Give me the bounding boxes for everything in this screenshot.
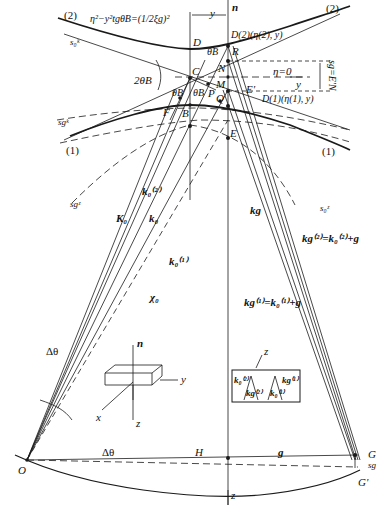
- theta-b-top: θB: [207, 47, 218, 57]
- beam-inset-kg-1: kg⁽¹⁾: [282, 376, 298, 385]
- s0k-label: s₀ᵏ: [70, 38, 79, 47]
- s0z-label: s₀ᶻ: [320, 204, 329, 213]
- y-top-label: y: [210, 8, 215, 19]
- point-Q: Q: [216, 93, 224, 104]
- g-vector-label: g: [278, 447, 284, 458]
- branch-2-label: (2): [64, 10, 77, 21]
- point-E: E: [230, 128, 237, 139]
- point-H: H: [195, 447, 203, 458]
- point-D: D: [193, 37, 201, 48]
- chi0-label: χ₀: [150, 292, 159, 303]
- branch-1-left-label: (1): [66, 145, 79, 156]
- y-axis-label: y: [296, 79, 301, 90]
- beam-inset-kg-2: kg⁽²⁾: [246, 389, 262, 398]
- K0-label: K₀: [116, 213, 127, 224]
- dispersion-equation: η²−y²tgθB=(1/2ξg)²: [90, 14, 169, 24]
- kg-1-line: [228, 90, 355, 460]
- inset-y-label: y: [181, 374, 186, 385]
- delta-theta-left: Δθ: [46, 346, 58, 357]
- k0-line: [27, 46, 228, 460]
- inset-n-label: n: [137, 338, 143, 349]
- beam-inset-z-label: z: [264, 346, 268, 357]
- g-vector: [27, 455, 358, 460]
- eta-zero-label: η=0: [273, 66, 291, 77]
- delta-theta-bottom: Δθ: [102, 447, 114, 458]
- theta-b-left: θB: [172, 88, 183, 98]
- beam-inset-k0-1: k₀⁽¹⁾: [270, 389, 284, 398]
- point-O: O: [18, 465, 26, 476]
- point-G-prime: G': [358, 477, 368, 488]
- point-D1: D(1)(η(1), y): [262, 94, 314, 104]
- s0z-sphere: [190, 125, 295, 205]
- beam-inset-k0-2: k₀⁽²⁾: [234, 376, 248, 385]
- inset-x-label: x: [96, 412, 101, 423]
- point-R: R: [232, 46, 239, 57]
- kg-1-equation: kg⁽¹⁾=k₀⁽¹⁾+g: [244, 297, 301, 308]
- branch-2-right-label: (2): [326, 3, 339, 14]
- z-axis-bottom-label: z: [231, 490, 235, 501]
- point-D2: D(2)(η(2), y): [231, 30, 283, 40]
- K0-line: [27, 78, 190, 460]
- point-G: G: [368, 449, 376, 460]
- branch-1-curve: [70, 105, 350, 150]
- n-axis-label: n: [232, 2, 238, 13]
- point-M: M: [216, 79, 225, 90]
- point-C: C: [192, 66, 199, 77]
- k0-label: k₀: [149, 213, 158, 224]
- sg-equals-label: sg=E'N: [327, 60, 337, 91]
- inset-z-label: z: [136, 418, 140, 429]
- two-theta-b-label: 2θB: [134, 75, 152, 86]
- kg-line: [228, 60, 356, 460]
- sgk-label: sgᵏ: [58, 118, 69, 127]
- kg-2-equation: kg⁽²⁾=k₀⁽²⁾+g: [302, 233, 359, 244]
- point-P: P: [208, 88, 215, 99]
- point-E-prime: E': [246, 84, 255, 95]
- k0-2-label: k₀⁽²⁾: [142, 186, 161, 197]
- chi0-line: [27, 120, 228, 460]
- kg-label: kg: [250, 205, 261, 216]
- k0-1-label: k₀⁽¹⁾: [169, 256, 188, 267]
- point-N: N: [218, 63, 225, 74]
- k0-1-line: [27, 90, 228, 460]
- theta-b-right: θB: [193, 88, 204, 98]
- sgk-dashed: [57, 108, 350, 130]
- sgz-sphere: [72, 125, 190, 203]
- branch-1-right-label: (1): [322, 146, 335, 157]
- point-B: B: [182, 108, 189, 119]
- sgz-label: sgᶻ: [70, 200, 80, 209]
- point-F: F: [163, 107, 170, 118]
- sg-small-label: sg: [368, 461, 376, 470]
